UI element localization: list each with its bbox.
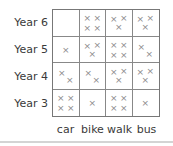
cross-mark-icon: × xyxy=(84,14,92,23)
cross-mark-icon: × xyxy=(120,104,128,113)
cross-mark-icon: × xyxy=(66,76,74,85)
cell-year-6-car xyxy=(53,10,80,37)
cell-year-4-bus: ××× xyxy=(133,63,160,90)
cell-year-4-walk: ××× xyxy=(106,63,133,90)
cross-mark-icon: × xyxy=(57,104,65,113)
cross-mark-icon: × xyxy=(93,76,101,85)
cross-mark-icon: × xyxy=(67,94,75,103)
cross-mark-icon: × xyxy=(84,24,92,33)
col-label-walk: walk xyxy=(106,123,133,136)
cross-mark-icon: × xyxy=(57,94,65,103)
cross-mark-icon: × xyxy=(89,50,97,59)
cell-year-3-car: ×××× xyxy=(53,90,80,117)
cross-mark-icon: × xyxy=(85,69,93,78)
cross-mark-icon: × xyxy=(110,104,118,113)
cell-year-6-walk: ××× xyxy=(106,10,133,37)
tally-grid: ×××××××××××××××××××××××××××××××××××××××× xyxy=(52,9,160,117)
divider-line xyxy=(0,141,173,143)
cell-year-3-bike: × xyxy=(80,90,107,117)
cell-year-4-car: ×× xyxy=(53,63,80,90)
cell-year-3-walk: ×××× xyxy=(106,90,133,117)
cross-mark-icon: × xyxy=(142,99,150,108)
cross-mark-icon: × xyxy=(62,46,70,55)
cell-year-5-walk: ×××× xyxy=(106,37,133,64)
cell-year-5-bus: ×× xyxy=(133,37,160,64)
cross-mark-icon: × xyxy=(67,104,75,113)
row-label-year-5: Year 5 xyxy=(0,36,48,63)
cell-year-5-car: × xyxy=(53,37,80,64)
cell-year-6-bus: ××× xyxy=(133,10,160,37)
cell-year-4-bike: ×× xyxy=(80,63,107,90)
row-label-year-4: Year 4 xyxy=(0,63,48,90)
cross-mark-icon: × xyxy=(110,41,118,50)
col-label-car: car xyxy=(52,123,79,136)
cross-mark-icon: × xyxy=(58,69,66,78)
col-label-bus: bus xyxy=(133,123,160,136)
cross-mark-icon: × xyxy=(94,14,102,23)
cross-mark-icon: × xyxy=(142,23,150,32)
cross-mark-icon: × xyxy=(110,51,118,60)
cross-mark-icon: × xyxy=(146,50,154,59)
cell-year-6-bike: ×××× xyxy=(80,10,107,37)
cross-mark-icon: × xyxy=(120,51,128,60)
cross-mark-icon: × xyxy=(120,94,128,103)
row-label-year-3: Year 3 xyxy=(0,90,48,117)
cross-mark-icon: × xyxy=(115,76,123,85)
cross-mark-icon: × xyxy=(94,24,102,33)
cross-mark-icon: × xyxy=(120,41,128,50)
cell-year-3-bus: × xyxy=(133,90,160,117)
cross-mark-icon: × xyxy=(110,94,118,103)
col-label-bike: bike xyxy=(79,123,106,136)
cross-mark-icon: × xyxy=(115,23,123,32)
cross-mark-icon: × xyxy=(138,43,146,52)
row-label-year-6: Year 6 xyxy=(0,9,48,36)
cell-year-5-bike: ××× xyxy=(80,37,107,64)
cross-mark-icon: × xyxy=(142,76,150,85)
cross-mark-icon: × xyxy=(89,99,97,108)
